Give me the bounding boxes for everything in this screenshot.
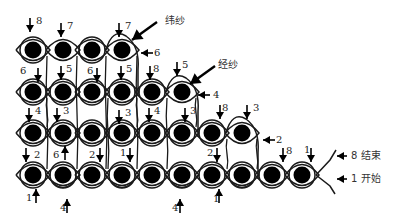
vertical-yarn <box>105 56 107 169</box>
yarn-dot <box>25 125 42 142</box>
yarn-dot <box>294 167 311 184</box>
weft-yarn-pointer-arrow-icon <box>132 29 144 40</box>
down-arrow-icon <box>57 30 65 37</box>
step-number-label: 4 <box>172 203 178 213</box>
down-arrow-icon <box>26 25 34 32</box>
vertical-yarn <box>136 98 138 127</box>
diagram-canvas <box>0 0 395 223</box>
yarn-start-tail <box>316 175 335 194</box>
step-number-label: 1 <box>213 194 219 204</box>
yarn-dot <box>25 167 42 184</box>
vertical-yarn <box>76 56 78 169</box>
vertical-yarn <box>166 98 168 169</box>
step-number-label: 2 <box>89 150 95 160</box>
down-arrow-icon <box>25 115 33 122</box>
up-arrow-icon <box>61 146 69 153</box>
step-number-label: 3 <box>125 108 131 118</box>
step-number-label: 4 <box>213 90 219 100</box>
step-number-label: 2 <box>276 135 282 145</box>
warp-yarn-label: 经纱 <box>218 60 238 70</box>
step-number-label: 6 <box>20 66 26 76</box>
down-arrow-icon <box>96 155 104 162</box>
step-number-label: 4 <box>60 203 66 213</box>
yarn-dot <box>84 42 101 59</box>
down-arrow-icon <box>22 155 30 162</box>
down-arrow-icon <box>307 155 315 162</box>
yarn-dot <box>114 84 131 101</box>
end-arrow-icon <box>337 152 344 160</box>
step-number-label: 8 <box>153 64 159 74</box>
step-number-label: 8 <box>36 16 42 26</box>
step-number-label: 4 <box>35 106 41 116</box>
yarn-dot <box>25 42 42 59</box>
yarn-dot <box>174 167 191 184</box>
yarn-dot <box>25 84 42 101</box>
yarn-dot <box>204 125 221 142</box>
warp-yarn-pointer-arrow-icon <box>190 73 202 84</box>
step-number-label: 6 <box>87 66 93 76</box>
yarn-dot <box>264 167 281 184</box>
yarn-dot <box>114 167 131 184</box>
down-arrow-icon <box>216 112 224 119</box>
step-number-label: 8 <box>222 103 228 113</box>
yarn-dot <box>174 84 191 101</box>
yarn-dot <box>55 84 72 101</box>
step-number-label: 3 <box>253 103 259 113</box>
start-label: 1 开始 <box>351 174 381 184</box>
step-number-label: 7 <box>67 21 73 31</box>
yarn-dot <box>114 125 131 142</box>
left-arrow-icon <box>263 136 270 144</box>
left-arrow-icon <box>141 49 148 57</box>
down-arrow-icon <box>213 155 221 162</box>
step-number-label: 2 <box>34 150 40 160</box>
end-label: 8 结束 <box>351 151 381 161</box>
up-arrow-icon <box>32 189 40 196</box>
step-number-label: 8 <box>286 146 292 156</box>
step-number-label: 1 <box>26 193 32 203</box>
yarn-dot <box>84 125 101 142</box>
yarn-end-tail <box>316 150 336 175</box>
step-number-label: 1 <box>120 148 126 158</box>
yarn-dot <box>234 125 251 142</box>
yarn-dot <box>174 125 191 142</box>
yarn-loop-diagram: 纬纱 经纱 8 结束 1 开始 877665658544334383226212… <box>0 0 395 223</box>
step-number-label: 5 <box>126 64 132 74</box>
start-arrow-icon <box>337 175 344 183</box>
yarn-dot <box>204 167 221 184</box>
yarn-dot <box>144 125 161 142</box>
step-number-label: 6 <box>53 150 59 160</box>
yarn-dot <box>144 84 161 101</box>
step-number-label: 3 <box>63 106 69 116</box>
yarn-dot <box>55 42 72 59</box>
step-number-label: 6 <box>154 48 160 58</box>
vertical-yarn <box>226 139 228 169</box>
weft-yarn-label: 纬纱 <box>165 16 185 26</box>
step-number-label: 4 <box>154 106 160 116</box>
yarn-dot <box>234 167 251 184</box>
yarn-dot <box>144 167 161 184</box>
step-number-label: 1 <box>304 145 310 155</box>
yarn-dot <box>55 125 72 142</box>
down-arrow-icon <box>126 155 134 162</box>
yarn-dot <box>84 84 101 101</box>
down-arrow-icon <box>173 69 181 76</box>
vertical-yarn <box>107 98 109 169</box>
step-number-label: 5 <box>66 64 72 74</box>
step-number-label: 5 <box>182 60 188 70</box>
yarn-dot <box>55 167 72 184</box>
step-number-label: 2 <box>207 148 213 158</box>
down-arrow-icon <box>279 155 287 162</box>
yarn-dot <box>84 167 101 184</box>
yarn-dot <box>114 42 131 59</box>
step-number-label: 7 <box>125 21 131 31</box>
step-number-label: 3 <box>190 106 196 116</box>
vertical-yarn <box>46 98 48 127</box>
